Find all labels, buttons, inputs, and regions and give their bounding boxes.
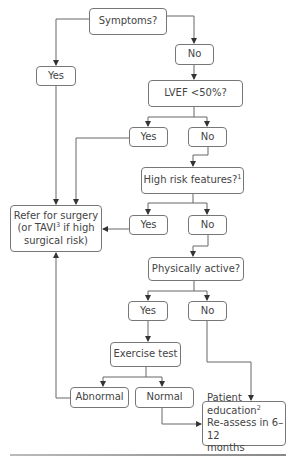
node-symptoms-no: No (175, 44, 214, 65)
node-normal-label: Normal (146, 391, 182, 404)
node-symptoms-no-label: No (188, 48, 202, 61)
node-active-no: No (188, 301, 227, 321)
node-abnormal: Abnormal (70, 387, 129, 408)
node-symptoms-label: Symptoms? (99, 15, 158, 28)
node-active-no-label: No (201, 305, 215, 318)
footnote-1: 1 (237, 173, 241, 181)
high-risk-text: High risk features? (144, 174, 238, 185)
refer-line3: surgical risk) (24, 235, 88, 246)
node-lvef-no: No (188, 127, 227, 147)
node-symptoms-yes-label: Yes (48, 70, 64, 83)
node-lvef-yes: Yes (129, 127, 168, 147)
node-lvef-no-label: No (201, 131, 215, 144)
node-refer: Refer for surgery (or TAVI3 if high surg… (10, 205, 102, 252)
patient-line2: Re-assess in 6–12 (207, 417, 283, 441)
patient-line1: Patient education (207, 392, 257, 416)
bottom-rule (10, 454, 286, 456)
node-refer-label: Refer for surgery (or TAVI3 if high surg… (14, 210, 99, 248)
refer-line2a: (or TAVI (17, 222, 56, 233)
node-abnormal-label: Abnormal (75, 391, 123, 404)
node-high-risk-no-label: No (201, 219, 215, 232)
node-exercise-test-label: Exercise test (114, 348, 178, 361)
node-lvef-yes-label: Yes (140, 131, 156, 144)
node-lvef: LVEF <50%? (148, 80, 243, 107)
node-high-risk-yes-label: Yes (140, 219, 156, 232)
node-exercise-test: Exercise test (110, 342, 181, 367)
node-high-risk-yes: Yes (129, 215, 168, 235)
footnote-2: 2 (257, 403, 261, 411)
node-patient-education-label: Patient education2 Re-assess in 6–12 mon… (207, 392, 285, 455)
node-symptoms: Symptoms? (89, 8, 167, 35)
node-active-yes-label: Yes (140, 305, 156, 318)
patient-line3: months (207, 442, 245, 453)
refer-line1: Refer for surgery (14, 210, 99, 221)
refer-line2b: if high (60, 222, 94, 233)
node-active-yes: Yes (128, 301, 168, 321)
node-active: Physically active? (148, 257, 244, 281)
node-high-risk: High risk features?1 (141, 167, 244, 194)
node-high-risk-label: High risk features?1 (144, 174, 242, 187)
node-lvef-label: LVEF <50%? (164, 87, 226, 100)
node-normal: Normal (135, 387, 194, 408)
node-symptoms-yes: Yes (36, 66, 76, 86)
node-patient-education: Patient education2 Re-assess in 6–12 mon… (202, 401, 286, 446)
node-active-label: Physically active? (152, 263, 240, 276)
node-high-risk-no: No (188, 215, 227, 235)
